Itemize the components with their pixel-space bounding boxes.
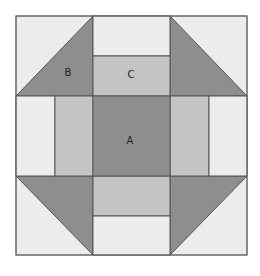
quilt-block-diagram: B C A [0, 0, 260, 276]
piece-c-bottom [93, 176, 170, 216]
top-light-strip [93, 16, 170, 56]
right-light-strip [209, 96, 247, 176]
label-a: A [127, 135, 134, 146]
label-b: B [65, 67, 72, 78]
piece-c-left [55, 96, 93, 176]
piece-c-right [170, 96, 209, 176]
bottom-light-strip [93, 216, 170, 255]
label-c: C [128, 69, 135, 80]
left-light-strip [16, 96, 55, 176]
